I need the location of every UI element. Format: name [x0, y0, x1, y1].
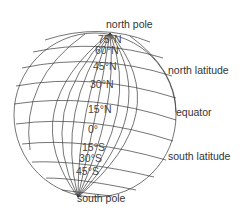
south-pole-label: south pole	[77, 192, 125, 204]
longitude-lines	[29, 33, 176, 197]
latitude-label-equator: 0°	[88, 123, 98, 135]
latitude-label-45n: 45°N	[93, 60, 116, 72]
north-pole-label: north pole	[106, 18, 153, 30]
latitude-label-45s: 45°S	[76, 165, 99, 177]
latitude-label-30s: 30°S	[79, 152, 102, 164]
latitude-label-60n: 60°N	[95, 44, 118, 56]
north-latitude-label: north latitude	[168, 64, 229, 76]
equator-label: equator	[176, 106, 212, 118]
south-latitude-label: south latitude	[168, 150, 230, 162]
latitude-label-30n: 30°N	[90, 78, 113, 90]
latitude-label-15n: 15°N	[88, 103, 111, 115]
